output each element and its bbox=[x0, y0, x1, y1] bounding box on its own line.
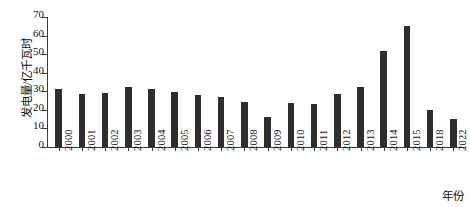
bar-2011 bbox=[311, 104, 318, 147]
y-tick-label: 40 bbox=[33, 65, 44, 76]
x-tick-label-2018: 2018 bbox=[434, 129, 445, 151]
x-tick-label-2004: 2004 bbox=[156, 129, 167, 151]
x-tick-label-2003: 2003 bbox=[132, 129, 143, 151]
bar-2003 bbox=[125, 87, 132, 147]
x-tick-label-2007: 2007 bbox=[225, 129, 236, 151]
y-tick-label: 60 bbox=[33, 28, 44, 39]
x-tick-label-2005: 2005 bbox=[179, 129, 190, 151]
x-tick-label-2002: 2002 bbox=[109, 129, 120, 151]
bar-2015 bbox=[404, 26, 411, 147]
bar-2000 bbox=[55, 89, 62, 148]
bar-2008 bbox=[241, 102, 248, 148]
x-tick-mark bbox=[384, 147, 385, 151]
x-tick-label-2008: 2008 bbox=[248, 129, 259, 151]
x-tick-mark bbox=[430, 147, 431, 151]
bar-2012 bbox=[334, 94, 341, 147]
x-axis-title: 年份 bbox=[442, 187, 464, 203]
x-tick-label-2010: 2010 bbox=[295, 129, 306, 151]
bar-2006 bbox=[195, 95, 202, 147]
x-tick-mark bbox=[268, 147, 269, 151]
x-tick-mark bbox=[175, 147, 176, 151]
y-tick-label: 50 bbox=[33, 46, 44, 57]
bar-2022 bbox=[450, 119, 457, 147]
x-tick-mark bbox=[105, 147, 106, 151]
x-tick-mark bbox=[291, 147, 292, 151]
bar-2014 bbox=[380, 51, 387, 147]
x-tick-label-2011: 2011 bbox=[318, 130, 329, 151]
x-tick-mark bbox=[59, 147, 60, 151]
x-tick-mark bbox=[82, 147, 83, 151]
bar-chart: 发电量/亿千瓦时 010203040506070 200020012002200… bbox=[0, 0, 470, 207]
bar-2004 bbox=[148, 89, 155, 147]
plot-area: 010203040506070 bbox=[47, 17, 465, 147]
x-tick-mark bbox=[407, 147, 408, 151]
bar-2018 bbox=[427, 110, 434, 147]
x-tick-label-2001: 2001 bbox=[86, 129, 97, 151]
x-tick-label-2006: 2006 bbox=[202, 129, 213, 151]
x-tick-mark bbox=[314, 147, 315, 151]
bar-2013 bbox=[357, 87, 364, 147]
x-tick-mark bbox=[453, 147, 454, 151]
bar-2007 bbox=[218, 97, 225, 147]
x-tick-mark bbox=[361, 147, 362, 151]
x-tick-mark bbox=[221, 147, 222, 151]
x-tick-mark bbox=[128, 147, 129, 151]
x-tick-label-2000: 2000 bbox=[63, 129, 74, 151]
y-tick-label: 70 bbox=[33, 9, 44, 20]
bar-2005 bbox=[171, 92, 178, 147]
x-tick-mark bbox=[337, 147, 338, 151]
y-tick-label: 30 bbox=[33, 83, 44, 94]
x-tick-mark bbox=[198, 147, 199, 151]
x-tick-label-2012: 2012 bbox=[341, 129, 352, 151]
x-tick-label-2014: 2014 bbox=[388, 129, 399, 151]
y-tick-label: 10 bbox=[33, 120, 44, 131]
x-tick-mark bbox=[152, 147, 153, 151]
bar-2002 bbox=[102, 93, 109, 147]
x-tick-mark bbox=[244, 147, 245, 151]
bar-2010 bbox=[288, 103, 295, 147]
x-tick-label-2009: 2009 bbox=[272, 129, 283, 151]
x-tick-label-2022: 2022 bbox=[457, 129, 468, 151]
y-tick-label: 20 bbox=[33, 102, 44, 113]
bar-2001 bbox=[79, 94, 86, 147]
y-tick-label: 0 bbox=[39, 139, 45, 150]
x-tick-label-2015: 2015 bbox=[411, 129, 422, 151]
bar-2009 bbox=[264, 117, 271, 147]
x-tick-label-2013: 2013 bbox=[365, 129, 376, 151]
